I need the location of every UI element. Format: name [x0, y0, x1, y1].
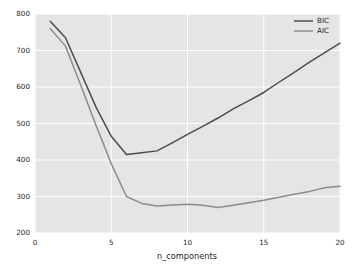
legend-label-aic: AIC — [317, 27, 329, 34]
x-tick-label: 5 — [109, 239, 114, 246]
y-tick-label: 800 — [4, 10, 30, 17]
x-tick-label: 20 — [335, 239, 344, 246]
y-tick-label: 700 — [4, 47, 30, 54]
x-tick-label: 15 — [259, 239, 268, 246]
y-tick-label: 500 — [4, 120, 30, 127]
x-axis-label: n_components — [157, 252, 217, 260]
y-tick-label: 300 — [4, 193, 30, 200]
legend-label-bic: BIC — [317, 17, 329, 24]
y-tick-label: 200 — [4, 229, 30, 236]
chart-plot-svg — [0, 0, 356, 271]
chart-figure: 200300400500600700800 05101520 BICAIC n_… — [0, 0, 356, 271]
x-tick-label: 10 — [183, 239, 192, 246]
x-tick-label: 0 — [33, 239, 38, 246]
y-tick-label: 400 — [4, 156, 30, 163]
y-tick-label: 600 — [4, 83, 30, 90]
